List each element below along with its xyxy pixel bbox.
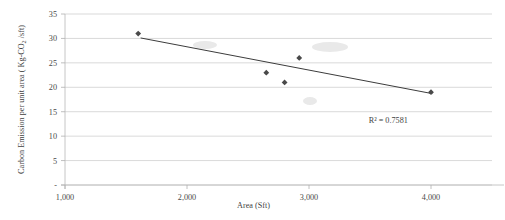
y-tick-label: 10 [49, 132, 57, 141]
x-tick-label: 1,000 [56, 193, 74, 202]
x-axis-title: Area (Sft) [237, 201, 270, 210]
y-axis-title: Carbon Emission per unit area ( Kg-CO2 /… [17, 25, 27, 174]
y-axis-tick-labels: -5101520253035 [49, 10, 57, 190]
y-tick-label: 20 [49, 83, 57, 92]
x-tick-label: 2,000 [178, 193, 196, 202]
y-tick-label: 25 [49, 59, 57, 68]
data-point-core [265, 71, 268, 74]
x-axis-title-text: Area (Sft) [237, 201, 270, 210]
y-tick-label: 35 [49, 10, 57, 19]
y-axis-ticks [61, 14, 65, 185]
y-tick-label: 30 [49, 34, 57, 43]
scatter-chart: -5101520253035 1,0002,0003,0004,000 R² =… [0, 0, 505, 220]
data-point-core [430, 91, 433, 94]
y-tick-label: 5 [53, 157, 57, 166]
trendline-segment [141, 38, 433, 94]
x-tick-label: 4,000 [422, 193, 440, 202]
trendline [141, 38, 433, 94]
y-gridlines [65, 14, 492, 185]
chart-canvas: -5101520253035 1,0002,0003,0004,000 R² =… [0, 0, 505, 220]
y-axis-title-text: Carbon Emission per unit area ( Kg-CO2 /… [17, 25, 27, 174]
x-tick-label: 3,000 [300, 193, 318, 202]
data-point-core [137, 32, 140, 35]
y-tick-label: 15 [49, 108, 57, 117]
data-point-core [298, 56, 301, 59]
x-axis-ticks [65, 185, 431, 189]
chart-annotations: R² = 0.7581 [369, 116, 408, 125]
r-squared-label: R² = 0.7581 [369, 116, 408, 125]
data-point-core [283, 81, 286, 84]
y-tick-label: - [54, 181, 57, 190]
